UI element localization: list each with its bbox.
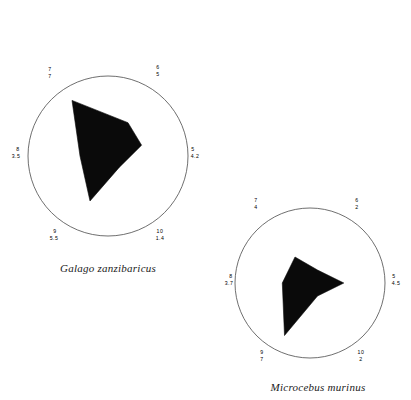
radar-panel-galago: 7 7 6 5 8 3.5 5 4.2 9 5.5 10 1.4 xyxy=(8,66,208,251)
axis-value-5: 4.5 xyxy=(392,280,401,286)
axis-number-7: 7 xyxy=(48,66,51,72)
caption-galago: Galago zanzibaricus xyxy=(18,262,198,274)
axis-value-10: 1.4 xyxy=(156,235,165,241)
axis-number-6: 6 xyxy=(156,64,159,70)
axis-value-7: 4 xyxy=(254,204,257,210)
axis-value-9: 5.5 xyxy=(50,235,59,241)
axis-number-5: 5 xyxy=(191,146,194,152)
radar-chart-galago: 7 7 6 5 8 3.5 5 4.2 9 5.5 10 1.4 xyxy=(8,66,208,251)
axis-number-10: 10 xyxy=(157,228,164,234)
axis-value-6: 5 xyxy=(156,71,159,77)
axis-number-8: 8 xyxy=(16,146,19,152)
radar-panel-microcebus: 7 4 6 2 8 3.7 5 4.5 9 7 10 2 xyxy=(222,196,411,372)
axis-number-7: 7 xyxy=(254,197,257,203)
axis-number-9: 9 xyxy=(260,349,263,355)
caption-microcebus: Microcebus murinus xyxy=(232,381,404,393)
axis-number-10: 10 xyxy=(358,349,365,355)
axis-number-6: 6 xyxy=(355,197,358,203)
axis-value-7: 7 xyxy=(48,73,51,79)
axis-number-9: 9 xyxy=(53,228,56,234)
axis-number-5: 5 xyxy=(392,273,395,279)
axis-number-8: 8 xyxy=(229,273,232,279)
axis-value-6: 2 xyxy=(355,204,358,210)
radar-chart-microcebus: 7 4 6 2 8 3.7 5 4.5 9 7 10 2 xyxy=(222,196,411,372)
axis-value-10: 2 xyxy=(359,356,362,362)
axis-value-9: 7 xyxy=(260,356,263,362)
axis-value-8: 3.7 xyxy=(225,280,234,286)
figure-canvas: 7 7 6 5 8 3.5 5 4.2 9 5.5 10 1.4 Galago … xyxy=(0,0,411,400)
axis-value-8: 3.5 xyxy=(12,153,21,159)
axis-value-5: 4.2 xyxy=(191,153,200,159)
